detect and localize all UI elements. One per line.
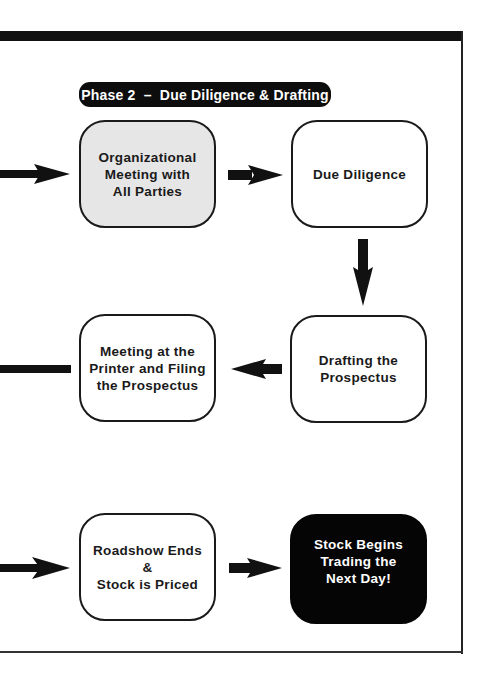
step-text: Printer and Filing bbox=[89, 360, 205, 377]
step-text: Drafting the bbox=[319, 352, 398, 369]
step-text: the Prospectus bbox=[89, 377, 205, 394]
step-text: Trading the bbox=[314, 553, 403, 570]
step-text: Stock is Priced bbox=[87, 576, 208, 593]
step-text: Next Day! bbox=[314, 570, 403, 587]
step-text: Stock Begins bbox=[314, 536, 403, 553]
diagram-frame-right bbox=[461, 31, 463, 654]
arrow-left-icon bbox=[230, 358, 282, 380]
step-roadshow-priced: Roadshow Ends & Stock is Priced bbox=[79, 513, 216, 621]
arrow-right-icon bbox=[228, 164, 284, 186]
connector-line-left bbox=[0, 363, 71, 375]
arrow-right-icon bbox=[0, 556, 72, 580]
step-text: Organizational bbox=[99, 149, 197, 166]
step-due-diligence: Due Diligence bbox=[291, 120, 428, 228]
step-text: Meeting with bbox=[99, 166, 197, 183]
arrow-right-icon bbox=[229, 557, 283, 579]
step-organizational-meeting: Organizational Meeting with All Parties bbox=[79, 120, 216, 228]
step-text: Due Diligence bbox=[313, 166, 406, 183]
diagram-frame-bottom bbox=[0, 651, 463, 653]
arrow-right-icon bbox=[0, 163, 72, 185]
step-text: Roadshow Ends & bbox=[87, 542, 208, 576]
diagram-top-bar bbox=[0, 31, 463, 41]
step-stock-trading: Stock Begins Trading the Next Day! bbox=[290, 514, 427, 624]
step-text: All Parties bbox=[99, 183, 197, 200]
step-drafting-prospectus: Drafting the Prospectus bbox=[290, 315, 427, 423]
arrow-down-icon bbox=[352, 239, 374, 307]
step-printer-filing: Meeting at the Printer and Filing the Pr… bbox=[79, 314, 216, 422]
step-text: Meeting at the bbox=[89, 343, 205, 360]
step-text: Prospectus bbox=[319, 369, 398, 386]
phase-label: Phase 2 – Due Diligence & Drafting bbox=[79, 82, 331, 107]
